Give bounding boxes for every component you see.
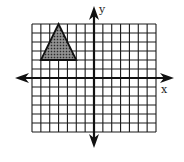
- axes: [15, 6, 174, 148]
- coordinate-plane: x y: [0, 0, 184, 162]
- y-axis-label: y: [98, 3, 106, 16]
- x-axis-label: x: [161, 83, 168, 96]
